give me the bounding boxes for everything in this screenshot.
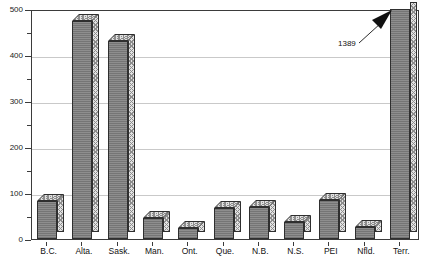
bar-front-face bbox=[143, 218, 163, 239]
y-axis-tick-label: 100 bbox=[10, 190, 23, 198]
bar-sask bbox=[108, 34, 135, 239]
y-axis-tick-label: 400 bbox=[10, 52, 23, 60]
x-axis-tick-label: Alta. bbox=[66, 246, 101, 256]
x-axis-tick-label: Ont. bbox=[172, 246, 207, 256]
bar-side-face bbox=[128, 34, 135, 232]
bar-que bbox=[214, 201, 241, 239]
bar-nfld bbox=[355, 220, 382, 239]
bar-side-face bbox=[339, 193, 346, 232]
x-axis-tick-label: PEI bbox=[313, 246, 348, 256]
bar-ns bbox=[284, 215, 311, 239]
x-axis-tick-label: Que. bbox=[207, 246, 242, 256]
y-axis-tick-label: 0 bbox=[19, 236, 23, 244]
plot-area bbox=[31, 10, 419, 240]
bar-front-face bbox=[214, 208, 234, 239]
bar-front-face bbox=[108, 41, 128, 239]
x-axis-tick-label: Terr. bbox=[384, 246, 419, 256]
bar-front-face bbox=[72, 21, 92, 240]
bar-side-face bbox=[57, 194, 64, 232]
bar-front-face bbox=[249, 207, 269, 239]
x-axis-tick-label: Man. bbox=[137, 246, 172, 256]
bar-terr bbox=[390, 2, 417, 239]
bar-side-face bbox=[410, 2, 417, 232]
bar-alta bbox=[72, 14, 99, 240]
x-axis-tick-label: Sask. bbox=[102, 246, 137, 256]
y-axis-tick-label: 500 bbox=[10, 6, 23, 14]
x-axis: B.C.Alta.Sask.Man.Ont.Que.N.B.N.S.PEINfl… bbox=[31, 246, 419, 266]
y-axis: 0100200300400500 bbox=[0, 0, 31, 270]
bar-nb bbox=[249, 200, 276, 239]
bar-side-face bbox=[92, 14, 99, 233]
bar-front-face bbox=[37, 201, 57, 239]
bar-bc bbox=[37, 194, 64, 239]
bar-man bbox=[143, 211, 170, 239]
bar-front-face bbox=[178, 228, 198, 240]
bar-front-face bbox=[319, 200, 339, 239]
y-axis-tick bbox=[25, 240, 31, 241]
y-axis-tick-label: 200 bbox=[10, 144, 23, 152]
bar-front-face bbox=[355, 227, 375, 239]
x-axis-tick-label: N.B. bbox=[243, 246, 278, 256]
bar-front-face bbox=[284, 222, 304, 239]
x-axis-tick-label: N.S. bbox=[278, 246, 313, 256]
bar-ont bbox=[178, 221, 205, 240]
x-axis-tick-label: Nfld. bbox=[348, 246, 383, 256]
y-axis-tick-label: 300 bbox=[10, 98, 23, 106]
x-axis-tick-label: B.C. bbox=[31, 246, 66, 256]
bar-front-face bbox=[390, 9, 410, 239]
bar-chart-figure: 0100200300400500 B.C.Alta.Sask.Man.Ont.Q… bbox=[0, 0, 426, 270]
bar-pei bbox=[319, 193, 346, 239]
